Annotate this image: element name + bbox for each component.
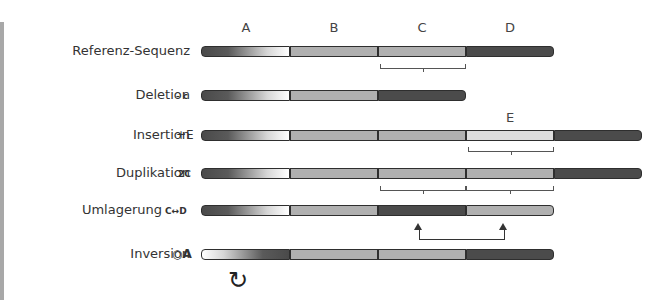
column-label-c: C — [417, 20, 426, 35]
segment-b — [290, 90, 378, 101]
segment-d — [554, 130, 642, 141]
left-margin-rule — [0, 22, 4, 300]
segment-a — [201, 168, 290, 179]
op-rearrangement: C↔D — [165, 206, 187, 216]
segment-d — [378, 205, 466, 216]
segment-d — [378, 90, 466, 101]
column-label-a: A — [242, 20, 251, 35]
segment-c — [378, 46, 466, 57]
bracket-e — [468, 147, 554, 152]
column-label-d: D — [505, 20, 515, 35]
segment-d — [554, 168, 642, 179]
segment-c — [466, 205, 554, 216]
segment-c — [378, 168, 466, 179]
bracket-c — [380, 64, 466, 69]
segment-c-duplicate — [466, 168, 554, 179]
bracket-c — [380, 186, 466, 191]
segment-a — [201, 130, 290, 141]
arrow-up-icon — [414, 223, 422, 230]
segment-b — [290, 205, 378, 216]
op-insertion: +E — [176, 128, 194, 142]
segment-a — [201, 90, 290, 101]
segment-c — [378, 130, 466, 141]
label-e: E — [506, 110, 514, 125]
segment-c — [378, 249, 466, 260]
segment-e — [466, 130, 554, 141]
segment-a — [201, 46, 290, 57]
segment-b — [290, 46, 378, 57]
column-label-b: B — [330, 20, 339, 35]
segment-b — [290, 130, 378, 141]
segment-d — [466, 249, 554, 260]
segment-b — [290, 168, 378, 179]
arrow-up-icon — [499, 223, 507, 230]
segment-a — [201, 205, 290, 216]
row-label-rearrangement: Umlagerung — [82, 202, 162, 217]
swap-connector — [419, 230, 505, 240]
segment-d — [466, 46, 554, 57]
op-deletion: - c — [176, 91, 188, 101]
segment-a-inverted — [201, 249, 290, 260]
segment-b — [290, 249, 378, 260]
row-label-reference: Referenz-Sequenz — [72, 43, 190, 58]
op-inversion: ○A — [172, 247, 192, 261]
rotate-icon: ↻ — [228, 268, 248, 292]
bracket-c-duplicate — [466, 186, 554, 191]
op-duplication: 2C — [178, 169, 191, 179]
